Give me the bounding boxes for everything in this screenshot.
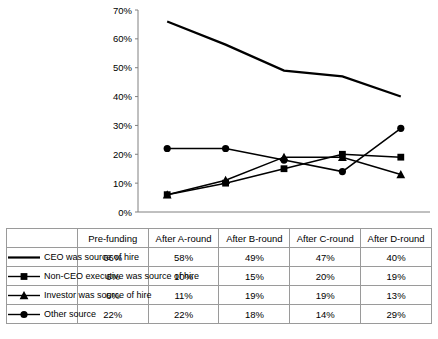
legend-label-text: Investor was source of hire	[44, 290, 152, 300]
line-chart-svg: 0%10%20%30%40%50%60%70%	[106, 6, 432, 228]
series-legend-label: Investor was source of hire	[7, 286, 78, 305]
table-cell: 19%	[361, 267, 432, 286]
table-corner-cell	[7, 229, 78, 248]
legend-value-table: Pre-fundingAfter A-roundAfter B-roundAft…	[6, 228, 432, 324]
table-cell: 49%	[219, 248, 290, 267]
legend-label-text: CEO was source of hire	[44, 252, 139, 262]
table-header-row: Pre-fundingAfter A-roundAfter B-roundAft…	[7, 229, 432, 248]
y-axis-tick-label: 50%	[113, 62, 133, 73]
table-cell: 19%	[219, 286, 290, 305]
table-row: CEO was source of hire66%58%49%47%40%	[7, 248, 432, 267]
table-cell: 15%	[219, 267, 290, 286]
legend-marker-icon	[7, 271, 41, 282]
y-axis-tick-label: 10%	[113, 178, 133, 189]
series-layer	[163, 22, 405, 199]
y-axis-ticks: 0%10%20%30%40%50%60%70%	[113, 6, 138, 218]
table-column-header: After A-round	[148, 229, 219, 248]
series-line	[167, 128, 401, 171]
table-cell: 40%	[361, 248, 432, 267]
series-marker	[397, 125, 404, 132]
series-marker	[397, 154, 404, 161]
legend-label-text: Other source	[44, 309, 96, 319]
y-axis-tick-label: 70%	[113, 6, 133, 16]
legend-marker-icon	[7, 309, 41, 320]
series-marker	[164, 145, 171, 152]
table-column-header: After D-round	[361, 229, 432, 248]
legend-marker-icon	[7, 252, 41, 263]
series-marker	[222, 145, 229, 152]
table-cell: 13%	[361, 286, 432, 305]
y-axis-tick-label: 40%	[113, 91, 133, 102]
table-cell: 18%	[219, 305, 290, 324]
y-axis-tick-label: 60%	[113, 33, 133, 44]
table-cell: 29%	[361, 305, 432, 324]
table-cell: 19%	[290, 286, 361, 305]
y-axis-tick-label: 20%	[113, 149, 133, 160]
table-cell: 58%	[148, 248, 219, 267]
y-axis-tick-label: 30%	[113, 120, 133, 131]
legend-marker-icon	[7, 290, 41, 301]
table-cell: 11%	[148, 286, 219, 305]
chart-page: 0%10%20%30%40%50%60%70% Pre-fundingAfter…	[0, 0, 438, 339]
table-cell: 20%	[290, 267, 361, 286]
chart-plot-area: 0%10%20%30%40%50%60%70%	[106, 6, 432, 228]
series-legend-label: Non-CEO executive was source of hire	[7, 267, 78, 286]
series-marker	[280, 156, 287, 163]
series-legend-label: CEO was source of hire	[7, 248, 78, 267]
y-axis-tick-label: 0%	[118, 207, 132, 218]
table-row: Other source22%22%18%14%29%	[7, 305, 432, 324]
series-marker	[339, 168, 346, 175]
table-row: Investor was source of hire6%11%19%19%13…	[7, 286, 432, 305]
table-cell: 47%	[290, 248, 361, 267]
series-legend-label: Other source	[7, 305, 78, 324]
table-cell: 14%	[290, 305, 361, 324]
data-table: Pre-fundingAfter A-roundAfter B-roundAft…	[6, 228, 432, 334]
series-line	[167, 22, 401, 97]
table-column-header: After C-round	[290, 229, 361, 248]
series-1	[167, 22, 401, 97]
table-column-header: After B-round	[219, 229, 290, 248]
series-marker	[281, 165, 288, 172]
table-row: Non-CEO executive was source of hire6%10…	[7, 267, 432, 286]
table-cell: 22%	[148, 305, 219, 324]
table-column-header: Pre-funding	[77, 229, 148, 248]
